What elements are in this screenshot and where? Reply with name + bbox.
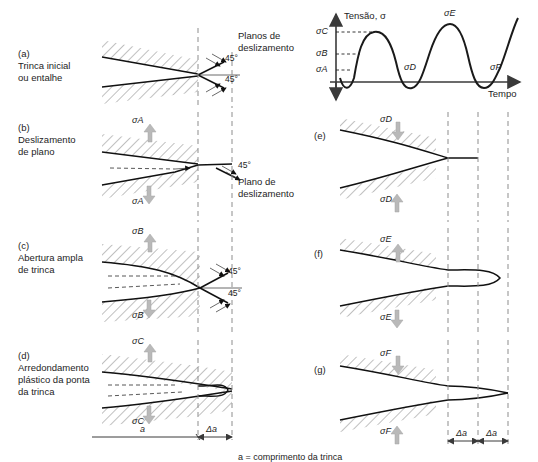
panel-g-geometry: [340, 340, 508, 444]
panel-id-b: (b): [18, 122, 30, 133]
stress-label-g-top: σF: [380, 348, 391, 358]
stress-label-e-top: σD: [380, 114, 392, 124]
stress-label-f-top: σE: [380, 234, 391, 244]
stress-label-d-top: σC: [132, 336, 144, 346]
panel-id-e: (e): [314, 130, 326, 141]
chart-ytick-sigma-c: σC: [316, 26, 328, 36]
stress-label-c-bottom: σB: [132, 310, 143, 320]
stress-label-f-bottom: σE: [380, 312, 391, 322]
angle-label-a1: 45°: [225, 53, 238, 63]
stress-label-c-top: σB: [132, 226, 143, 236]
angle-label-b1: 45°: [238, 160, 251, 170]
panel-id-c: (c): [18, 240, 29, 251]
figure-bottom-caption: a = comprimento da trinca: [238, 452, 342, 462]
stress-label-b-bottom: σA: [132, 196, 143, 206]
dimension-label-delta-a-2: Δa: [456, 428, 467, 438]
stress-label-e-bottom: σD: [380, 194, 392, 204]
stress-label-g-bottom: σF: [380, 426, 391, 436]
slip-planes-label: Planos de deslizamento: [238, 30, 294, 54]
dimension-label-delta-a: Δa: [206, 424, 217, 434]
chart-ytick-sigma-b: σB: [316, 48, 327, 58]
chart-point-sigma-f: σF: [490, 62, 501, 72]
fatigue-crack-propagation-figure: (a) Trinca inicial ou entalhe: [0, 0, 538, 462]
panel-c-geometry: [102, 228, 242, 336]
angle-label-c1: 45°: [228, 266, 241, 276]
angle-label-c2: 45°: [228, 288, 241, 298]
panel-id-f: (f): [314, 248, 323, 259]
chart-ytick-sigma-a: σA: [316, 64, 327, 74]
chart-x-axis-label: Tempo: [488, 88, 517, 99]
stress-label-b-top: σA: [132, 115, 143, 125]
panel-a-geometry: [102, 28, 240, 108]
panel-b-geometry: [102, 112, 240, 222]
panel-caption-d: Arredondamento plástico da ponta da trin…: [18, 362, 90, 398]
panel-id-g: (g): [314, 364, 326, 375]
panel-e-geometry: [340, 112, 508, 222]
dimension-label-a: a: [140, 424, 145, 434]
panel-f-geometry: [340, 228, 508, 336]
chart-point-sigma-e: σE: [444, 8, 455, 18]
panel-caption-c: Abertura ampla de trinca: [18, 252, 83, 276]
slip-plane-label: Plano de deslizamento: [238, 176, 294, 200]
panel-id-d: (d): [18, 350, 30, 361]
chart-y-axis-label: Tensão, σ: [344, 10, 386, 21]
angle-label-a2: 45°: [225, 74, 238, 84]
dimension-label-delta-a-3: Δa: [486, 428, 497, 438]
chart-point-sigma-d: σD: [404, 62, 416, 72]
panel-caption-b: Deslizamento de plano: [18, 134, 76, 158]
